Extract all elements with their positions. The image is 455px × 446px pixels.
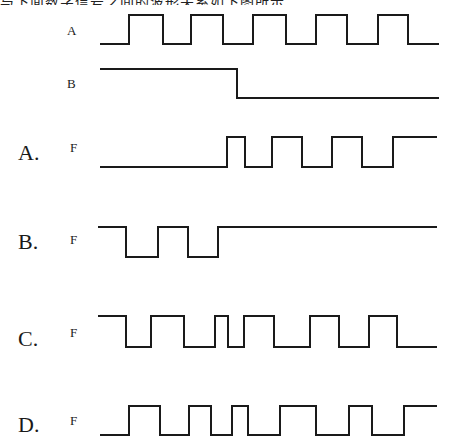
waveform-option-a (100, 137, 437, 167)
waveform-canvas (0, 0, 455, 446)
waveform-option-b (98, 227, 437, 257)
waveform-option-c (98, 316, 437, 347)
waveform-input-a (100, 15, 439, 44)
waveform-input-b (100, 69, 439, 98)
waveform-option-d (100, 406, 437, 435)
